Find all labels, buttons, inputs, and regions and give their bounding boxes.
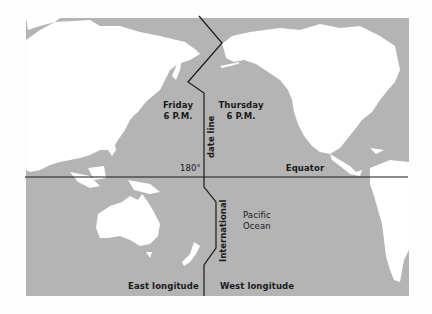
thursday-day: Thursday	[217, 100, 265, 111]
west-longitude-label: West longitude	[220, 281, 300, 292]
pacific-map	[0, 0, 432, 314]
ocean-word: Ocean	[243, 221, 283, 232]
meridian-180-label: 180°	[180, 163, 210, 174]
east-longitude-label: East longitude	[128, 281, 208, 292]
friday-label: Friday 6 P.M.	[158, 100, 198, 122]
pacific-word: Pacific	[243, 210, 283, 221]
friday-day: Friday	[158, 100, 198, 111]
friday-time: 6 P.M.	[158, 111, 198, 122]
date-line-label: date line	[206, 116, 216, 158]
thursday-label: Thursday 6 P.M.	[217, 100, 265, 122]
international-label: International	[218, 199, 228, 262]
thursday-time: 6 P.M.	[217, 111, 265, 122]
pacific-ocean-label: Pacific Ocean	[243, 210, 283, 232]
equator-label: Equator	[280, 163, 330, 174]
